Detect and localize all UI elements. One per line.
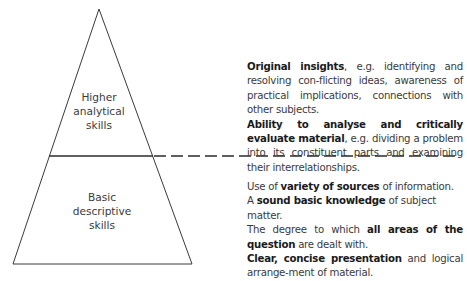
lower-label-line-2: descriptive [52,204,152,218]
lower-label-line-3: skills [52,218,152,232]
basic-skill-item: The degree to which all areas of the que… [247,223,463,252]
basic-skill-item: Use of variety of sources of information… [247,180,463,194]
basic-skill-heading: sound basic knowledge [257,195,386,206]
upper-tier-label: Higher analytical skills [49,90,149,132]
upper-label-line-3: skills [49,118,149,132]
higher-skill-heading: Original insights [247,61,344,72]
basic-skills-description: Use of variety of sources of information… [247,180,463,281]
basic-skill-text: Use of [247,181,281,192]
upper-label-line-2: analytical [49,104,149,118]
basic-skill-item: Clear, concise presentation and logical … [247,252,463,281]
lower-label-line-1: Basic [52,190,152,204]
upper-label-line-1: Higher [49,90,149,104]
basic-skill-heading: Clear, concise presentation [247,253,402,264]
higher-skills-description: Original insights, e.g. identifying and … [247,60,463,175]
higher-skill-item: Ability to analyse and critically evalua… [247,118,463,176]
lower-tier-label: Basic descriptive skills [52,190,152,232]
basic-skill-text: are dealt with. [295,239,368,250]
basic-skill-text: of information. [379,181,453,192]
basic-skill-item: A sound basic knowledge of subject matte… [247,194,463,223]
basic-skill-text: The degree to which [247,224,367,235]
basic-skill-text: A [247,195,257,206]
basic-skill-heading: variety of sources [281,181,380,192]
higher-skill-item: Original insights, e.g. identifying and … [247,60,463,118]
